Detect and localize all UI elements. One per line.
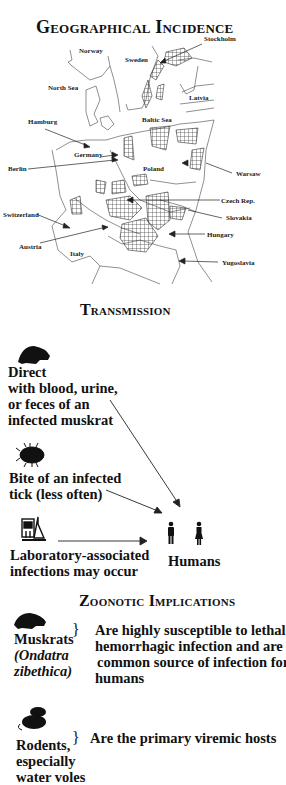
- muskrat-species-label: Muskrats (Ondatra zibethica): [14, 631, 74, 679]
- arrow-lab-head: [140, 537, 147, 545]
- label-sweden: Sweden: [125, 56, 148, 64]
- rodent-species-label: Rodents, especially water voles: [16, 737, 85, 785]
- label-latvia: Latvia: [189, 94, 208, 102]
- incidence-areas: [70, 48, 204, 252]
- label-poland: Poland: [143, 165, 164, 173]
- muskrat-brace: }: [72, 621, 80, 639]
- label-austria: Austria: [19, 243, 42, 251]
- female-figure-icon: [195, 522, 203, 545]
- label-hungary: Hungary: [207, 231, 234, 239]
- arrow-direct-head: [173, 499, 180, 507]
- label-stockholm: Stockholm: [204, 35, 236, 43]
- arrow-tick-head: [154, 507, 162, 513]
- label-baltic-sea: Baltic Sea: [142, 116, 172, 124]
- male-figure-icon: [168, 522, 174, 544]
- label-czech: Czech Rep.: [221, 197, 255, 205]
- label-warsaw: Warsaw: [236, 170, 261, 178]
- humans-label: Humans: [168, 553, 220, 569]
- label-north-sea: North Sea: [48, 84, 78, 92]
- label-norway: Norway: [79, 47, 103, 55]
- lab-transmission-text: Laboratory-associated infections may occ…: [10, 547, 149, 579]
- label-germany: Germany: [74, 151, 102, 159]
- lab-icon: [22, 517, 46, 540]
- rodents-icon: [18, 707, 46, 730]
- label-hamburg: Hamburg: [28, 118, 57, 126]
- tick-transmission-text: Bite of an infected tick (less often): [9, 470, 121, 502]
- zoonotic-title: Zoonotic Implications: [79, 592, 235, 610]
- rodent-description: Are the primary viremic hosts: [90, 730, 276, 746]
- label-slovakia: Slovakia: [226, 214, 252, 222]
- muskrat-description: Are highly susceptible to lethal hemorrh…: [95, 622, 286, 686]
- muskrat-zoonotic-icon: [14, 613, 46, 629]
- label-switzerland: Switzerland: [3, 211, 39, 219]
- tick-icon: [16, 443, 44, 467]
- label-yugoslavia: Yugoslavia: [222, 259, 254, 267]
- transmission-title: Transmission: [80, 301, 171, 319]
- europe-map: [0, 0, 286, 290]
- muskrat-icon: [18, 346, 50, 364]
- direct-transmission-text: Direct with blood, urine, or feces of an…: [8, 364, 118, 428]
- label-berlin: Berlin: [8, 165, 27, 173]
- label-italy: Italy: [70, 250, 84, 258]
